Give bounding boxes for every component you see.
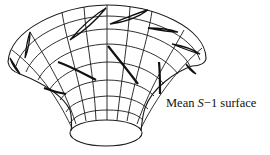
label-suffix: −1 surface — [204, 96, 257, 110]
label-prefix: Mean — [166, 96, 198, 110]
blade-sections — [10, 8, 200, 94]
s1-surface-diagram — [0, 0, 270, 155]
surface-label: Mean S−1 surface — [166, 96, 256, 111]
throat-ellipse — [70, 120, 142, 146]
